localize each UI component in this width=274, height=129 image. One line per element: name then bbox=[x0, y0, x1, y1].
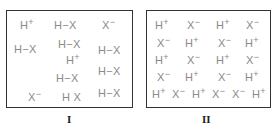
charge-superscript: + bbox=[193, 35, 199, 45]
charge-superscript: − bbox=[220, 86, 226, 96]
charge-superscript: − bbox=[165, 69, 171, 79]
species-label: X− bbox=[28, 92, 41, 104]
species-label: H−X bbox=[54, 20, 77, 31]
charge-superscript: − bbox=[180, 86, 186, 96]
charge-superscript: − bbox=[195, 52, 201, 62]
species-label: H+ bbox=[185, 38, 199, 50]
species-label: X− bbox=[232, 89, 245, 101]
charge-superscript: + bbox=[28, 17, 34, 27]
species-label: X− bbox=[157, 72, 170, 84]
species-label: H+ bbox=[152, 89, 166, 101]
species-label: X− bbox=[187, 55, 200, 67]
charge-superscript: + bbox=[163, 52, 169, 62]
charge-superscript: − bbox=[240, 86, 246, 96]
charge-superscript: + bbox=[163, 17, 169, 27]
species-label: H−X bbox=[98, 66, 121, 77]
species-label: H+ bbox=[192, 89, 206, 101]
panel-i-label: I bbox=[67, 113, 71, 125]
species-label: H X bbox=[62, 92, 81, 103]
charge-superscript: − bbox=[254, 17, 260, 27]
charge-superscript: + bbox=[253, 35, 259, 45]
charge-superscript: + bbox=[260, 86, 266, 96]
species-label: H+ bbox=[252, 89, 266, 101]
species-label: H+ bbox=[185, 72, 199, 84]
species-label: H+ bbox=[245, 38, 259, 50]
species-label: H+ bbox=[155, 55, 169, 67]
species-label: H−X bbox=[98, 88, 121, 99]
charge-superscript: + bbox=[253, 69, 259, 79]
charge-superscript: − bbox=[226, 35, 232, 45]
species-label: H+ bbox=[216, 55, 230, 67]
charge-superscript: − bbox=[165, 35, 171, 45]
species-label: H+ bbox=[245, 72, 259, 84]
species-label: X− bbox=[246, 55, 259, 67]
charge-superscript: + bbox=[193, 69, 199, 79]
charge-superscript: − bbox=[195, 17, 201, 27]
species-label: X− bbox=[157, 38, 170, 50]
charge-superscript: + bbox=[200, 86, 206, 96]
charge-superscript: − bbox=[254, 52, 260, 62]
charge-superscript: − bbox=[110, 17, 116, 27]
species-label: X− bbox=[212, 89, 225, 101]
species-label: H−X bbox=[56, 73, 79, 84]
species-label: X− bbox=[218, 72, 231, 84]
species-label: H+ bbox=[66, 55, 80, 67]
species-label: X− bbox=[218, 38, 231, 50]
species-label: X− bbox=[187, 20, 200, 32]
species-label: H+ bbox=[216, 20, 230, 32]
charge-superscript: + bbox=[74, 52, 80, 62]
species-label: H−X bbox=[98, 45, 121, 56]
species-label: X− bbox=[102, 20, 115, 32]
species-label: H−X bbox=[14, 44, 37, 55]
charge-superscript: − bbox=[226, 69, 232, 79]
species-label: H−X bbox=[58, 39, 81, 50]
charge-superscript: + bbox=[160, 86, 166, 96]
species-label: X− bbox=[246, 20, 259, 32]
species-label: H+ bbox=[20, 20, 34, 32]
species-label: H+ bbox=[155, 20, 169, 32]
species-label: X− bbox=[172, 89, 185, 101]
panel-ii-label: II bbox=[202, 113, 211, 125]
charge-superscript: + bbox=[224, 52, 230, 62]
charge-superscript: + bbox=[224, 17, 230, 27]
charge-superscript: − bbox=[36, 89, 42, 99]
